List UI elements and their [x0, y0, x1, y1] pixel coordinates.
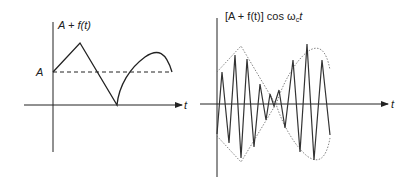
right-plot: t [A + f(t)] cos ωct: [200, 10, 395, 177]
right-y-label: [A + f(t)] cos ωct: [225, 10, 303, 23]
message-signal-curve: [53, 43, 172, 105]
left-plot: A + f(t) A t: [24, 19, 188, 152]
left-y-label: A + f(t): [57, 19, 91, 31]
left-x-label: t: [184, 99, 188, 111]
level-a-label: A: [35, 66, 43, 78]
right-y-label-main: [A + f(t)] cos ω: [225, 10, 296, 22]
right-y-label-t: t: [299, 10, 303, 22]
am-carrier-wave: [217, 44, 330, 160]
diagram-canvas: A + f(t) A t t [A + f(t)] cos ωct: [0, 0, 411, 184]
right-x-label: t: [391, 98, 395, 110]
